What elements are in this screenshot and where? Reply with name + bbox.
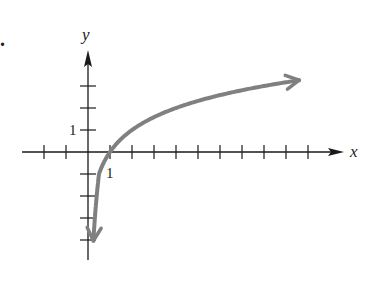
x-axis-label: x (349, 142, 358, 161)
x-tick-label-1: 1 (106, 165, 114, 181)
log-curve (87, 75, 299, 240)
log-graph: . x y 1 1 (0, 0, 366, 285)
y-tick-label-1: 1 (69, 122, 77, 138)
y-axis-label: y (80, 25, 90, 44)
curve-path (93, 80, 299, 241)
figure-label: . (0, 28, 5, 50)
